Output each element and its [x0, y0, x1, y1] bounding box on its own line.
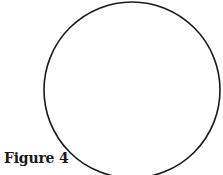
- figure-diagram: [0, 0, 223, 175]
- circle-shape: [44, 2, 220, 175]
- figure-caption: Figure 4: [4, 150, 69, 166]
